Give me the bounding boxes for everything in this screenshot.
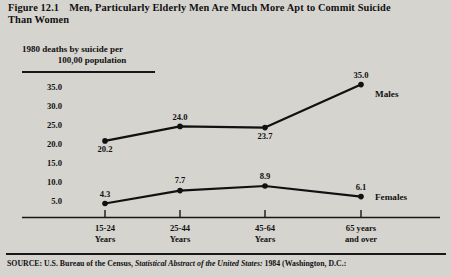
x-tick-label-1: 15-24 Years <box>62 223 148 244</box>
x-tick-label-3-line-1: 45-64 <box>222 223 308 234</box>
data-point-males-1 <box>102 138 108 144</box>
series-line-males <box>105 85 361 141</box>
data-point-males-3 <box>262 125 268 131</box>
source-prefix: SOURCE: U.S. Bureau of the Census, <box>7 259 133 268</box>
x-tick-label-4-line-2: and over <box>318 234 404 245</box>
source-suffix: 1984 (Washington, D.C.: <box>265 259 347 268</box>
series-legend-males: Males <box>375 89 398 99</box>
data-point-females-1 <box>102 201 108 207</box>
data-label-males-3: 23.7 <box>245 132 285 141</box>
data-label-males-1: 20.2 <box>85 145 125 154</box>
x-tick-label-1-line-1: 15-24 <box>62 223 148 234</box>
x-tick-label-1-line-2: Years <box>62 234 148 245</box>
data-label-males-4: 35.0 <box>341 71 381 80</box>
figure-container: Figure 12.1Men, Particularly Elderly Men… <box>0 0 451 277</box>
x-tick-label-3: 45-64 Years <box>222 223 308 244</box>
x-tick-label-4-line-1: 65 years <box>318 223 404 234</box>
x-tick-label-2: 25-44 Years <box>137 223 223 244</box>
data-point-males-4 <box>358 82 364 88</box>
x-tick-label-4: 65 years and over <box>318 223 404 244</box>
data-label-females-3: 8.9 <box>245 172 285 181</box>
data-point-males-2 <box>177 124 183 130</box>
data-point-females-3 <box>262 183 268 189</box>
x-tick-label-3-line-2: Years <box>222 234 308 245</box>
x-tick-label-2-line-1: 25-44 <box>137 223 223 234</box>
data-label-males-2: 24.0 <box>160 113 200 122</box>
data-point-females-4 <box>358 194 364 200</box>
x-tick-label-2-line-2: Years <box>137 234 223 245</box>
data-label-females-1: 4.3 <box>85 190 125 199</box>
series-legend-females: Females <box>375 192 407 202</box>
series-line-females <box>105 186 361 204</box>
data-label-females-4: 6.1 <box>341 183 381 192</box>
data-point-females-2 <box>177 188 183 194</box>
data-label-females-2: 7.7 <box>160 176 200 185</box>
chart-plot-area: 35.0 30.0 25.0 20.0 15.0 10.0 5.0 <box>0 0 451 277</box>
source-separator-rule <box>6 253 446 255</box>
source-publication-title: Statistical Abstract of the United State… <box>135 259 263 268</box>
source-note: SOURCE: U.S. Bureau of the Census, Stati… <box>7 259 449 269</box>
